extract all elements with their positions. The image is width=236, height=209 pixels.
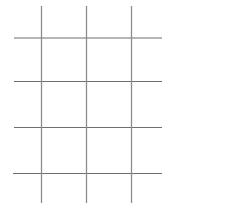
diagram-canvas — [0, 0, 236, 209]
canvas-background — [0, 0, 236, 209]
grid-lattice-svg — [0, 0, 236, 209]
